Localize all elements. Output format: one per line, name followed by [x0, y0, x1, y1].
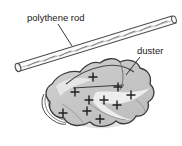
diagram-canvas: polythene rod duster: [0, 0, 182, 146]
rod-inner-edge: [19, 20, 174, 68]
physics-diagram-charging-rod: polythene rod duster: [0, 0, 182, 146]
label-polythene-rod: polythene rod: [27, 12, 85, 23]
leader-line-polythene-rod: [58, 24, 72, 46]
duster-graphic: [42, 59, 154, 129]
label-duster: duster: [137, 45, 163, 56]
